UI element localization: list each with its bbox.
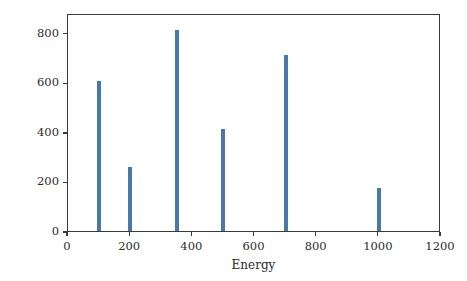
x-tick-label: 1000	[348, 239, 408, 253]
x-tick-mark	[439, 232, 440, 236]
y-tick-mark	[63, 132, 67, 133]
bar	[377, 188, 381, 231]
bars-layer	[68, 15, 439, 231]
x-tick-mark	[377, 232, 378, 236]
x-tick-mark	[129, 232, 130, 236]
x-tick-label: 400	[161, 239, 221, 253]
bar	[97, 81, 101, 231]
x-tick-mark	[191, 232, 192, 236]
y-tick-mark	[63, 182, 67, 183]
bar	[284, 55, 288, 231]
x-tick-mark	[315, 232, 316, 236]
x-tick-label: 800	[286, 239, 346, 253]
bar	[221, 129, 225, 231]
bar	[175, 30, 179, 231]
y-tick-mark	[63, 33, 67, 34]
bar	[128, 167, 132, 231]
y-tick-label: 0	[15, 224, 59, 238]
y-tick-mark	[63, 83, 67, 84]
x-tick-label: 200	[99, 239, 159, 253]
x-tick-label: 1200	[410, 239, 467, 253]
y-tick-label: 800	[15, 26, 59, 40]
plot-area	[67, 14, 440, 232]
x-tick-label: 600	[224, 239, 284, 253]
y-tick-label: 200	[15, 174, 59, 188]
x-tick-mark	[66, 232, 67, 236]
chart-figure: 0200400600800 020040060080010001200 Ener…	[0, 0, 467, 281]
x-axis-title: Energy	[67, 258, 440, 272]
y-tick-label: 600	[15, 75, 59, 89]
x-tick-mark	[253, 232, 254, 236]
y-tick-label: 400	[15, 125, 59, 139]
x-tick-label: 0	[37, 239, 97, 253]
